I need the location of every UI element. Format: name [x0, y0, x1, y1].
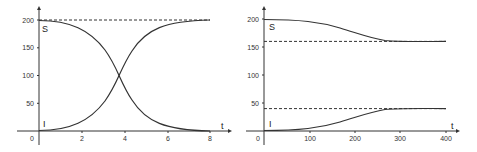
left-s-curve [39, 21, 210, 132]
right-xtick-100: 100 [304, 135, 316, 142]
left-x-axis-arrow-icon [228, 129, 232, 133]
right-s-curve [264, 20, 446, 42]
right-ytick-150: 150 [247, 44, 259, 51]
left-ytick-100: 100 [22, 72, 34, 79]
right-y-axis-arrow-icon [262, 6, 266, 10]
right-chart: 50 100 150 200 0 100 200 300 400 t S I [246, 6, 460, 145]
left-i-label: I [43, 119, 46, 129]
right-ytick-200: 200 [247, 16, 259, 23]
right-i-label: I [269, 119, 272, 129]
left-xtick-8: 8 [208, 135, 212, 142]
right-xtick-0: 0 [256, 135, 260, 142]
left-xtick-0: 0 [30, 135, 34, 142]
left-y-axis-arrow-icon [37, 6, 41, 10]
left-xtick-4: 4 [123, 135, 127, 142]
right-ytick-50: 50 [251, 100, 259, 107]
right-ytick-100: 100 [247, 72, 259, 79]
left-s-label: S [42, 24, 48, 34]
right-i-curve [264, 108, 446, 130]
sir-charts: 50 100 150 200 0 2 4 6 8 t S I 5 [0, 0, 477, 152]
right-xtick-400: 400 [440, 135, 452, 142]
left-xtick-6: 6 [166, 135, 170, 142]
right-xtick-300: 300 [394, 135, 406, 142]
right-t-axis-label: t [451, 121, 454, 131]
left-ytick-200: 200 [22, 17, 34, 24]
left-chart: 50 100 150 200 0 2 4 6 8 t S I [17, 6, 232, 145]
left-xtick-2: 2 [80, 135, 84, 142]
right-s-label: S [269, 22, 275, 32]
left-i-curve [39, 20, 210, 131]
left-ytick-150: 150 [22, 44, 34, 51]
right-x-axis-arrow-icon [456, 129, 460, 133]
left-ytick-50: 50 [26, 100, 34, 107]
right-xtick-200: 200 [349, 135, 361, 142]
left-t-axis-label: t [221, 121, 224, 131]
